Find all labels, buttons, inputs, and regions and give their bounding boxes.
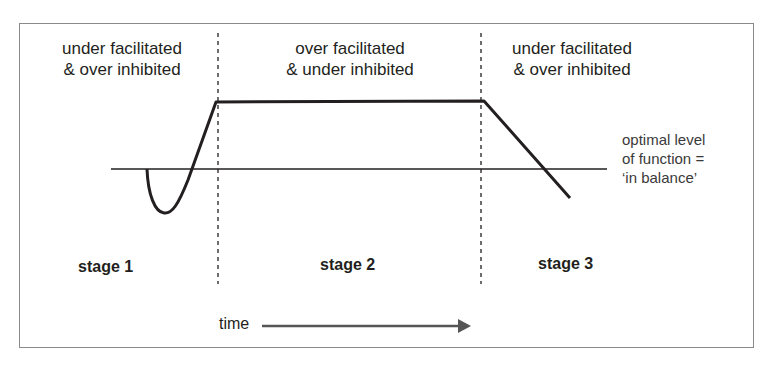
region-label-line2: & over inhibited [502, 59, 642, 80]
region-label-stage-2: over facilitated & under inhibited [270, 38, 430, 80]
region-label-line2: & under inhibited [270, 59, 430, 80]
optimal-label-line1: optimal level [622, 130, 705, 149]
time-label: time [219, 315, 249, 333]
optimal-level-label: optimal level of function = ‘in balance’ [622, 130, 705, 187]
region-label-line1: under facilitated [52, 38, 192, 59]
stage-2-label: stage 2 [320, 256, 375, 274]
region-label-line2: & over inhibited [52, 59, 192, 80]
region-label-stage-3: under facilitated & over inhibited [502, 38, 642, 80]
region-label-line1: over facilitated [270, 38, 430, 59]
region-label-stage-1: under facilitated & over inhibited [52, 38, 192, 80]
time-arrow-head-icon [458, 319, 471, 333]
region-label-line1: under facilitated [502, 38, 642, 59]
function-curve [147, 101, 570, 213]
stage-1-label: stage 1 [78, 258, 133, 276]
optimal-label-line2: of function = [622, 149, 705, 168]
optimal-label-line3: ‘in balance’ [622, 168, 705, 187]
stage-3-label: stage 3 [538, 255, 593, 273]
